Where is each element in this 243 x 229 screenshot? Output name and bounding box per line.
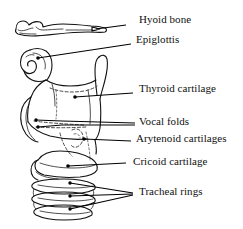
label-layer: Hyoid bone Epiglottis Thyroid cartilage … <box>0 0 243 229</box>
label-arytenoid-cartilages: Arytenoid cartilages <box>136 132 227 144</box>
label-hyoid-bone: Hyoid bone <box>139 13 191 25</box>
label-cricoid-cartilage: Cricoid cartilage <box>133 155 207 167</box>
label-epiglottis: Epiglottis <box>136 33 179 45</box>
label-thyroid-cartilage: Thyroid cartilage <box>139 82 216 94</box>
label-vocal-folds: Vocal folds <box>139 115 189 127</box>
larynx-anatomy-figure: Hyoid bone Epiglottis Thyroid cartilage … <box>0 0 243 229</box>
label-tracheal-rings: Tracheal rings <box>139 185 203 197</box>
